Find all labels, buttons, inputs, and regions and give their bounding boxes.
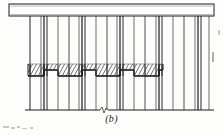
scan-speck xyxy=(3,126,9,128)
top-beam-group xyxy=(9,4,214,16)
scan-speck xyxy=(11,127,15,129)
scan-speck xyxy=(218,30,220,35)
figure-caption: (b) xyxy=(0,113,223,124)
scan-speck xyxy=(17,126,20,128)
scan-speck xyxy=(30,127,33,129)
figure-container: (b) xyxy=(0,0,223,135)
scan-speck xyxy=(22,128,27,129)
